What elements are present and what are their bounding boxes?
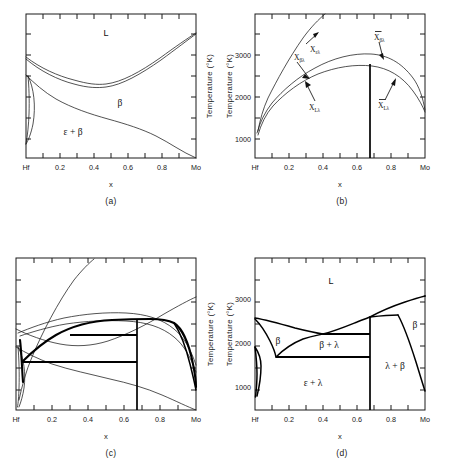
svg-text:Xελ: Xελ [310, 45, 321, 55]
curve-epsilon-lens-inner-c [18, 347, 20, 407]
svg-text:XLλ: XLλ [378, 101, 390, 111]
curve-stable-left-c [20, 340, 23, 382]
annotation-sub-3: βλ [379, 37, 385, 43]
x-tick-b-5: Mo [420, 163, 430, 172]
annotation-sub-1: βλ [299, 57, 305, 63]
x-tick-b-0: Hf [251, 163, 258, 172]
curve-solidus-a [26, 34, 196, 88]
curve-x-eps-lambda-b [258, 14, 325, 131]
x-tick-b-2: 0.4 [318, 163, 328, 172]
annotation-sub-0: ελ [315, 49, 320, 55]
curve-liquidus-right-d [323, 317, 370, 334]
x-tick-d-3: 0.6 [352, 415, 362, 424]
annotation-sub-2: Lλ [314, 107, 320, 113]
axis-ticks-right-a [191, 34, 196, 139]
panel-d-plot: L β β + λ λ + β ε + λ β 3000 2000 1000 H… [223, 240, 453, 460]
y-axis-title-b: Temperature (°K) [225, 54, 234, 118]
annotation-xbar-L-lambda-b: XLλ [378, 100, 390, 112]
leader-x-beta-lambda-b [297, 62, 309, 78]
axis-ticks-right-b [420, 34, 425, 139]
svg-text:Xβλ: Xβλ [374, 33, 385, 43]
curve-stable-upper-c [22, 319, 150, 362]
region-label-d-liquid: L [328, 276, 333, 286]
axis-ticks-top-a [43, 14, 179, 19]
svg-text:XLλ: XLλ [309, 103, 321, 113]
x-tick-b-4: 0.8 [386, 163, 396, 172]
region-label-a-beta: β [118, 98, 123, 108]
x-axis-title-d: x [338, 432, 342, 441]
panel-caption-a: (a) [0, 196, 222, 206]
axis-ticks-bottom-b [272, 153, 408, 158]
y-tick-b-2000: 2000 [235, 93, 251, 102]
y-tick-d-2000: 2000 [235, 339, 251, 348]
panel-caption-c: (c) [0, 448, 222, 458]
annotation-x-beta-lambda-b: Xβλ [294, 53, 305, 63]
y-axis-title-c: Temperature (°K) [206, 302, 215, 366]
axis-ticks-left-c [16, 280, 21, 390]
panel-caption-d: (d) [231, 448, 453, 458]
region-label-d-lambda-beta: λ + β [385, 361, 405, 371]
x-tick-a-2: 0.4 [89, 163, 99, 172]
x-axis-title-c: x [104, 432, 108, 441]
panel-a: L β ε + β Hf 0.2 0.4 0.6 0.8 Mo x Temper… [0, 0, 230, 215]
x-tick-d-2: 0.4 [318, 415, 328, 424]
curve-lambda-lower-c [20, 321, 196, 372]
x-tick-a-1: 0.2 [55, 163, 65, 172]
x-axis-title-b: x [338, 180, 342, 189]
curve-mo-solvus-d [398, 315, 425, 391]
x-tick-d-4: 0.8 [386, 415, 396, 424]
region-label-a-eps-beta: ε + β [64, 127, 83, 137]
svg-text:Xβλ: Xβλ [294, 53, 305, 63]
panel-c-plot: Hf 0.2 0.4 0.6 0.8 Mo x Temperature (°K) [0, 240, 230, 460]
plot-frame-c [16, 258, 196, 410]
region-label-a-liquid: L [103, 28, 108, 38]
annotation-x-L-lambda-b: XLλ [309, 103, 321, 113]
panel-c: Hf 0.2 0.4 0.6 0.8 Mo x Temperature (°K)… [0, 240, 230, 460]
x-tick-c-3: 0.6 [119, 415, 129, 424]
annotation-sub-4: Lλ [383, 105, 389, 111]
annotation-x-eps-lambda-b: Xελ [310, 45, 321, 55]
curve-x-eps-lambda-c [19, 259, 94, 400]
panel-caption-b: (b) [231, 196, 453, 206]
y-axis-title-d: Temperature (°K) [225, 302, 234, 366]
x-tick-c-5: Mo [191, 415, 201, 424]
region-label-d-eps-lambda: ε + λ [304, 378, 323, 388]
annotation-xbar-beta-lambda-b: Xβλ [374, 32, 385, 44]
curve-mo-upper-d [370, 296, 425, 317]
arrowhead-xbar-L-lambda-b [391, 78, 396, 86]
panel-d: L β β + λ λ + β ε + λ β 3000 2000 1000 H… [223, 240, 453, 460]
region-label-d-beta-right: β [413, 320, 418, 330]
region-label-d-beta-lambda: β + λ [319, 340, 339, 350]
x-tick-a-3: 0.6 [123, 163, 133, 172]
axis-ticks-bottom-c [34, 405, 178, 410]
panel-a-plot: L β ε + β Hf 0.2 0.4 0.6 0.8 Mo x Temper… [0, 0, 230, 215]
panel-b: Xελ Xβλ XLλ Xβλ [223, 0, 453, 215]
x-tick-c-4: 0.8 [155, 415, 165, 424]
axis-ticks-top-b [272, 14, 408, 19]
axis-ticks-top-d [272, 258, 408, 263]
curve-stable-right-c [150, 319, 196, 387]
x-axis-title-a: x [109, 180, 113, 189]
axis-ticks-top-c [34, 258, 178, 263]
x-tick-b-3: 0.6 [352, 163, 362, 172]
curve-solidus-left-up-d [276, 334, 323, 357]
x-tick-a-4: 0.8 [157, 163, 167, 172]
plot-frame-b [255, 14, 425, 158]
y-tick-d-3000: 3000 [235, 295, 251, 304]
x-tick-b-1: 0.2 [284, 163, 294, 172]
axis-ticks-bottom-a [43, 153, 179, 158]
x-tick-a-5: Mo [191, 163, 201, 172]
curve-liquidus-a [26, 33, 196, 84]
y-tick-b-3000: 3000 [235, 51, 251, 60]
region-label-d-beta-left: β [276, 336, 281, 346]
y-tick-b-1000: 1000 [235, 135, 251, 144]
arrowhead-xbar-beta-lambda-b [379, 53, 384, 60]
curve-beta-transus-c [16, 347, 196, 410]
curve-x-beta-lambda-b [257, 54, 425, 133]
axis-ticks-bottom-d [272, 405, 408, 410]
phase-diagram-figure: L β ε + β Hf 0.2 0.4 0.6 0.8 Mo x Temper… [0, 0, 453, 460]
x-tick-a-0: Hf [22, 163, 29, 172]
y-axis-title-a: Temperature (°K) [205, 54, 214, 118]
x-tick-d-5: Mo [420, 415, 430, 424]
x-tick-c-0: Hf [12, 415, 19, 424]
